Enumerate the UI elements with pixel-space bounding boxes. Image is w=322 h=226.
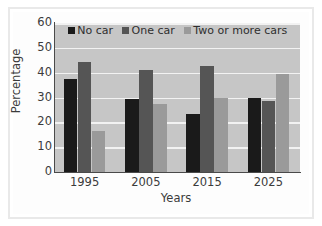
x-axis-tick-labels: 1995200520152025 (55, 175, 300, 191)
bar (78, 62, 92, 173)
bar-group (125, 23, 167, 172)
y-tick-label: 20 (30, 117, 52, 129)
bar-group (64, 23, 106, 172)
x-axis-title: Years (52, 191, 300, 205)
bar (92, 131, 106, 172)
bar (139, 70, 153, 172)
bar (262, 101, 276, 172)
y-axis-title: Percentage (9, 41, 23, 121)
plot-area: No carOne carTwo or more cars (55, 23, 300, 172)
bar (64, 79, 78, 172)
y-tick-label: 30 (30, 92, 52, 104)
y-tick-label: 50 (30, 42, 52, 54)
bar (214, 98, 228, 173)
bar-group (248, 23, 290, 172)
bar (125, 99, 139, 172)
x-tick-label: 2015 (192, 175, 221, 189)
y-tick-label: 60 (30, 17, 52, 29)
y-tick-label: 40 (30, 67, 52, 79)
bar (248, 98, 262, 173)
y-tick-label: 0 (30, 166, 52, 178)
x-tick-label: 2025 (254, 175, 283, 189)
bar (200, 66, 214, 172)
bar-groups (55, 23, 300, 172)
y-axis-tick-labels: 0102030405060 (26, 0, 52, 226)
y-tick-label: 10 (30, 141, 52, 153)
x-tick-label: 2005 (131, 175, 160, 189)
bar (153, 104, 167, 172)
bar-chart-figure: Percentage Years 0102030405060 No carOne… (0, 0, 322, 226)
bar (276, 74, 290, 172)
bar (186, 114, 200, 172)
x-tick-label: 1995 (70, 175, 99, 189)
bar-group (186, 23, 228, 172)
